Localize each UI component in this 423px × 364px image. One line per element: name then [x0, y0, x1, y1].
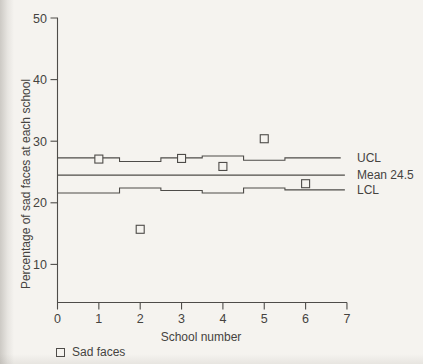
- x-tick-label-2: 2: [137, 312, 144, 326]
- x-tick-label-5: 5: [261, 312, 268, 326]
- x-tick-label-3: 3: [178, 312, 185, 326]
- x-tick-label-6: 6: [302, 312, 309, 326]
- scanned-control-chart-page: 102030405001234567 Percentage of sad fac…: [0, 0, 423, 364]
- mean-line-label: Mean 24.5: [357, 168, 414, 182]
- data-point-school-5: [260, 135, 268, 143]
- x-tick-label-7: 7: [343, 312, 350, 326]
- data-point-school-1: [95, 155, 103, 163]
- x-tick-label-1: 1: [95, 312, 102, 326]
- square-marker-icon: [56, 348, 65, 357]
- y-axis-title: Percentage of sad faces at each school: [19, 79, 33, 289]
- lcl-line: [58, 188, 345, 193]
- control-chart-plot: 102030405001234567: [0, 0, 423, 364]
- y-tick-label-20: 20: [33, 196, 47, 210]
- y-tick-label-40: 40: [33, 73, 47, 87]
- data-point-school-2: [136, 225, 144, 233]
- ucl-line-label: UCL: [357, 151, 381, 165]
- x-axis-title: School number: [161, 330, 242, 344]
- data-point-school-6: [302, 180, 310, 188]
- y-tick-label-50: 50: [33, 12, 47, 26]
- y-tick-label-30: 30: [33, 135, 47, 149]
- x-tick-label-0: 0: [54, 312, 61, 326]
- y-tick-label-10: 10: [33, 258, 47, 272]
- data-point-school-3: [178, 154, 186, 162]
- data-point-school-4: [219, 162, 227, 170]
- legend: Sad faces: [56, 345, 125, 359]
- lcl-line-label: LCL: [357, 183, 379, 197]
- legend-label: Sad faces: [72, 345, 125, 359]
- x-tick-label-4: 4: [219, 312, 226, 326]
